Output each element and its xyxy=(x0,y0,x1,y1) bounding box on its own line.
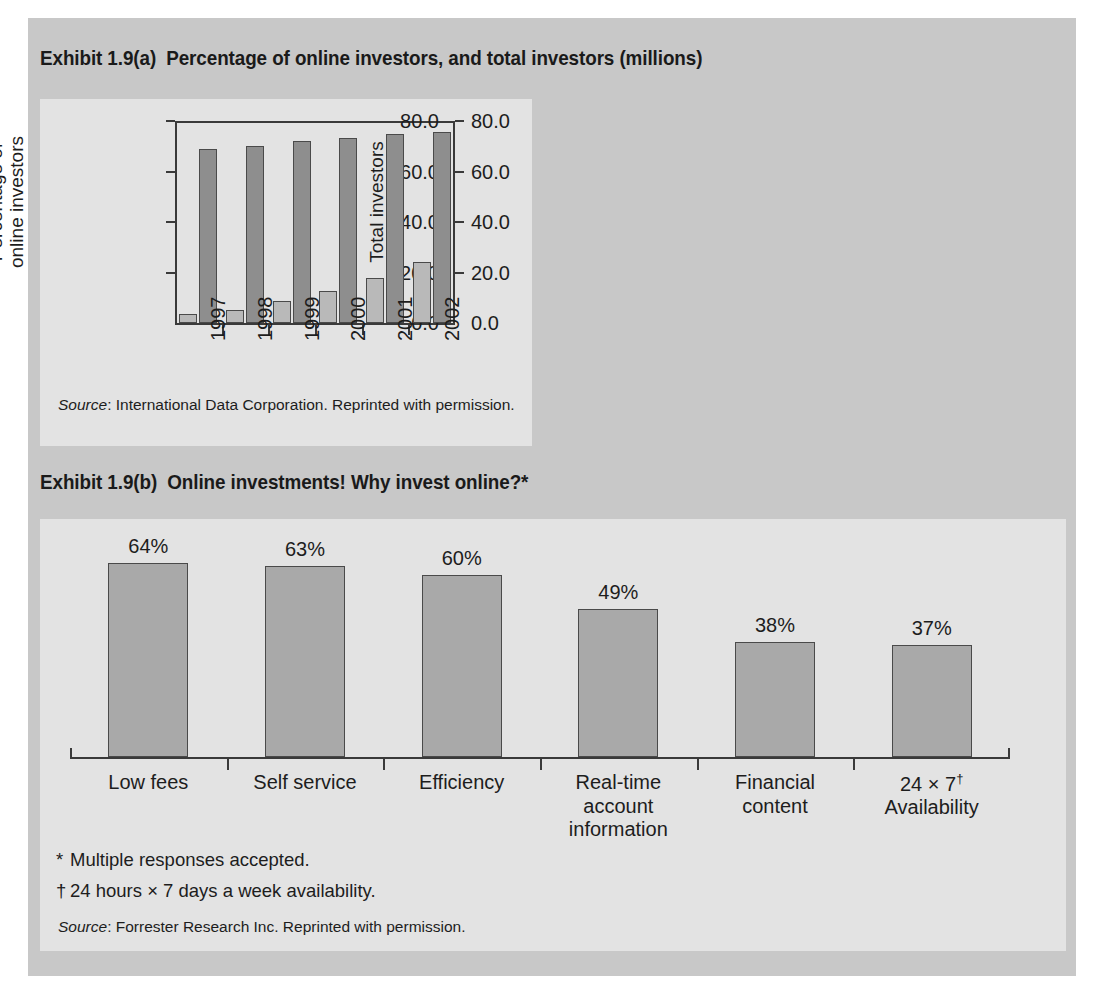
footnote-1-mark: * xyxy=(56,849,70,871)
category-label: Low fees xyxy=(108,771,188,795)
footnote-2-text: 24 hours × 7 days a week availability. xyxy=(70,880,376,901)
chart-b-plot-area: 64%63%60%49%38%37% xyxy=(70,537,1010,759)
year-label: 1998 xyxy=(254,297,277,342)
bar-value-label: 38% xyxy=(755,614,795,637)
bar xyxy=(265,566,345,757)
category-label: 24 × 7†Availability xyxy=(885,771,979,820)
category-label: Self service xyxy=(253,771,356,795)
year-label: 1997 xyxy=(207,297,230,342)
right-axis-tick-label: 60.0 xyxy=(471,160,510,183)
x-axis-tick xyxy=(227,759,229,770)
left-axis-tick-label: 80.0 xyxy=(400,110,439,133)
exhibit-a-title-text: Percentage of online investors, and tota… xyxy=(166,46,702,69)
bar-value-label: 63% xyxy=(285,538,325,561)
exhibit-a-title: Exhibit 1.9(a)Percentage of online inves… xyxy=(40,46,702,70)
right-axis-tick-label: 0.0 xyxy=(471,312,499,335)
year-label: 2000 xyxy=(347,297,370,342)
exhibit-b-footnote-2: †24 hours × 7 days a week availability. xyxy=(56,880,376,902)
chart-why-invest-online: 64%63%60%49%38%37% Low feesSelf serviceE… xyxy=(40,519,1066,951)
footnote-2-mark: † xyxy=(56,880,70,902)
source-label-b: Source xyxy=(58,918,107,935)
bar xyxy=(108,563,188,757)
right-axis-tick-label: 40.0 xyxy=(471,211,510,234)
bar-value-label: 64% xyxy=(128,535,168,558)
bar xyxy=(892,645,972,757)
left-axis-tick xyxy=(166,120,175,122)
x-axis-tick xyxy=(697,759,699,770)
exhibit-b-number: Exhibit 1.9(b) xyxy=(40,470,157,493)
bar-value-label: 49% xyxy=(598,581,638,604)
source-text-a: : International Data Corporation. Reprin… xyxy=(107,396,515,413)
source-text-b: : Forrester Research Inc. Reprinted with… xyxy=(107,918,465,935)
plot-frame-left xyxy=(175,121,177,325)
category-label: Efficiency xyxy=(419,771,504,795)
left-axis-title: Percentage ofonline investors xyxy=(0,136,28,268)
exhibit-b-source: Source: Forrester Research Inc. Reprinte… xyxy=(58,918,465,936)
right-axis-tick xyxy=(455,221,464,223)
source-label-a: Source xyxy=(58,396,107,413)
exhibit-a-source: Source: International Data Corporation. … xyxy=(58,396,515,414)
bar-value-label: 37% xyxy=(912,617,952,640)
exhibit-b-title-text: Online investments! Why invest online?* xyxy=(167,470,528,493)
exhibit-b-footnote-1: *Multiple responses accepted. xyxy=(56,849,310,871)
x-axis-tick xyxy=(540,759,542,770)
bar xyxy=(433,132,451,323)
footnote-1-text: Multiple responses accepted. xyxy=(70,849,310,870)
year-label: 2002 xyxy=(441,297,464,342)
exhibit-a-number: Exhibit 1.9(a) xyxy=(40,46,156,69)
plot-frame-right xyxy=(453,121,455,325)
category-label: Real-timeaccountinformation xyxy=(569,771,668,842)
exhibit-figure: Exhibit 1.9(a)Percentage of online inves… xyxy=(0,0,1104,992)
bar xyxy=(422,575,502,757)
chart-online-investors: Percentage ofonline investors Total inve… xyxy=(40,99,532,446)
baseline-right-cap xyxy=(1008,748,1010,759)
bar xyxy=(339,138,357,323)
bar xyxy=(735,642,815,757)
chart-a-plot-area: 0.020.040.060.080.0 0.020.040.060.080.0 xyxy=(175,121,455,325)
left-axis-tick xyxy=(166,171,175,173)
left-axis-tick xyxy=(166,272,175,274)
right-axis-tick xyxy=(455,120,464,122)
right-axis-tick-label: 80.0 xyxy=(471,110,510,133)
right-axis-tick xyxy=(455,272,464,274)
right-axis-tick xyxy=(455,171,464,173)
category-label: Financialcontent xyxy=(735,771,815,818)
x-axis-tick xyxy=(853,759,855,770)
baseline-left-cap xyxy=(70,748,72,759)
year-label: 2001 xyxy=(394,297,417,342)
bar-value-label: 60% xyxy=(442,547,482,570)
bar xyxy=(179,314,197,323)
right-axis-tick-label: 20.0 xyxy=(471,261,510,284)
year-label: 1999 xyxy=(301,297,324,342)
exhibit-b-title: Exhibit 1.9(b)Online investments! Why in… xyxy=(40,470,528,494)
x-axis-tick xyxy=(383,759,385,770)
bar xyxy=(386,134,404,323)
bar xyxy=(578,609,658,757)
left-axis-tick xyxy=(166,221,175,223)
